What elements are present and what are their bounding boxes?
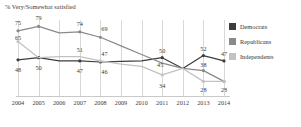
- value-label-republicans-2013: 38: [200, 61, 206, 68]
- series-line-republicans: [18, 26, 224, 81]
- legend-label: Independents: [240, 53, 274, 60]
- data-point-republicans-2008: [99, 36, 102, 39]
- data-point-independents-2008: [99, 59, 102, 62]
- tick-2004: [18, 90, 19, 96]
- data-point-republicans-2007: [78, 30, 81, 33]
- tick-2014: [224, 90, 225, 96]
- value-label-independents-2007: 51: [77, 46, 83, 53]
- x-axis-label-2010: 2010: [135, 99, 147, 106]
- tick-2008: [100, 90, 101, 96]
- plot-area: 75797469382828655147344548504746505247: [16, 20, 230, 90]
- value-label-republicans-2007: 74: [77, 20, 83, 27]
- value-label-democrats-2014: 47: [221, 50, 227, 57]
- legend-swatch-icon: [229, 53, 236, 60]
- value-label-democrats-2013: 52: [200, 45, 206, 52]
- value-label-republicans-2005: 79: [36, 14, 42, 21]
- data-point-democrats-2011: [161, 56, 164, 59]
- x-axis-label-2013: 2013: [197, 99, 209, 106]
- tick-2009: [121, 90, 122, 96]
- value-label-independents-2008: 47: [101, 50, 107, 57]
- legend-item-democrats[interactable]: Democrats: [229, 22, 297, 30]
- value-label-independents-2011: 45: [157, 61, 163, 68]
- tick-2012: [183, 90, 184, 96]
- x-axis-label-2005: 2005: [32, 99, 44, 106]
- data-point-republicans-2005: [37, 25, 40, 28]
- value-label-democrats-2007: 47: [77, 67, 83, 74]
- x-axis-label-2007: 2007: [74, 99, 86, 106]
- x-axis-label-2012: 2012: [177, 99, 189, 106]
- legend-label: Democrats: [240, 23, 267, 30]
- legend-swatch-icon: [229, 23, 236, 30]
- value-label-independents-2004: 65: [15, 34, 21, 41]
- legend-item-independents[interactable]: Independents: [229, 52, 297, 60]
- value-label-democrats-2005: 50: [36, 64, 42, 71]
- tick-2010: [142, 90, 143, 96]
- value-label-independents-2011: 34: [159, 82, 165, 89]
- legend-label: Republicans: [240, 38, 271, 45]
- series-lines: [16, 20, 230, 90]
- tick-2007: [80, 90, 81, 96]
- value-label-democrats-2008: 46: [101, 68, 107, 75]
- data-point-republicans-2004: [16, 29, 19, 32]
- data-point-independents-2011: [161, 73, 164, 76]
- tick-2013: [203, 90, 204, 96]
- x-axis-label-2006: 2006: [53, 99, 65, 106]
- value-label-democrats-2004: 48: [15, 66, 21, 73]
- data-point-republicans-2013: [202, 69, 205, 72]
- data-point-independents-2013: [202, 80, 205, 83]
- x-axis-line: [16, 96, 230, 97]
- tick-2005: [39, 90, 40, 96]
- value-label-democrats-2011: 50: [159, 47, 165, 54]
- chart-title: % Very/Somewhat satisfied: [5, 3, 76, 10]
- chart-root: % Very/Somewhat satisfied 75797469382828…: [0, 0, 301, 127]
- data-point-democrats-2004: [16, 58, 19, 61]
- x-axis-label-2004: 2004: [12, 99, 24, 106]
- data-point-democrats-2014: [222, 59, 225, 62]
- tick-2006: [59, 90, 60, 96]
- data-point-democrats-2007: [78, 59, 81, 62]
- x-axis-labels: 2004200520062007200820092010201120122013…: [16, 99, 230, 113]
- data-point-democrats-2013: [202, 54, 205, 57]
- data-point-independents-2014: [222, 80, 225, 83]
- legend-swatch-icon: [229, 38, 236, 45]
- x-axis-label-2011: 2011: [156, 99, 168, 106]
- value-label-republicans-2008: 69: [101, 25, 107, 32]
- tick-2011: [162, 90, 163, 96]
- x-axis-label-2008: 2008: [94, 99, 106, 106]
- legend: DemocratsRepublicansIndependents: [229, 22, 297, 67]
- legend-item-republicans[interactable]: Republicans: [229, 37, 297, 45]
- x-axis-label-2009: 2009: [115, 99, 127, 106]
- value-label-republicans-2004: 75: [15, 19, 21, 26]
- x-axis-label-2014: 2014: [218, 99, 230, 106]
